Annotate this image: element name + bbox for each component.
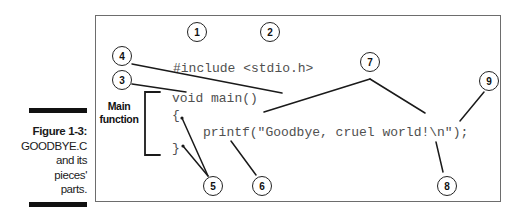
callout-7: 7 <box>360 52 380 72</box>
callout-6: 6 <box>252 176 272 196</box>
label-line: Main <box>98 100 140 113</box>
code-open-brace: { <box>172 109 180 123</box>
code-close-brace: } <box>172 142 180 156</box>
main-function-label: Main function <box>98 100 140 126</box>
callout-9: 9 <box>479 71 499 91</box>
callout-4: 4 <box>112 46 132 66</box>
callout-5: 5 <box>203 176 223 196</box>
callout-3: 3 <box>112 70 132 90</box>
main-function-bracket <box>145 92 160 155</box>
code-include-line: #include <stdio.h> <box>173 62 313 76</box>
code-main-declaration: void main() <box>172 92 258 106</box>
callout-1: 1 <box>187 22 207 42</box>
code-printf-statement: printf("Goodbye, cruel world!\n"); <box>203 126 468 140</box>
callout-8: 8 <box>437 176 457 196</box>
callout-2: 2 <box>260 22 280 42</box>
label-line: function <box>98 113 140 126</box>
